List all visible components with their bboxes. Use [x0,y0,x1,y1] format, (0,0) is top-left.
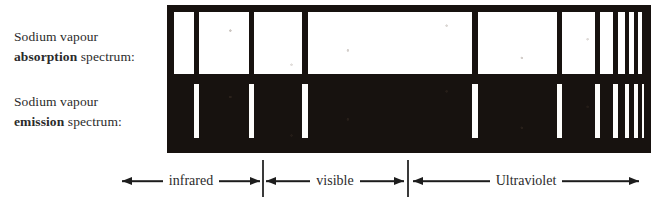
absorption-spectrum-panel [167,5,651,76]
spectral-dark-line-1 [194,12,199,74]
spectral-light-line-8 [625,84,629,138]
emission-line-container [174,76,644,146]
emission-label-line-2: emission spectrum: [14,112,164,132]
absorption-spectrum-label: Sodium vapour absorption spectrum: [14,27,164,66]
emission-spectrum-panel [167,76,651,153]
visible-ultraviolet-divider [407,160,409,197]
spectral-light-line-1 [194,84,199,138]
spectral-light-line-9 [634,84,638,138]
arrow-right-icon [394,177,404,185]
spectrum-figure [167,5,651,153]
absorption-label-line-2: absorption spectrum: [14,47,164,67]
ultraviolet-region-label: Ultraviolet [490,174,563,188]
arrow-left-icon [122,177,132,185]
spectral-dark-line-3 [302,12,308,74]
spectral-light-line-2 [249,84,254,138]
spectral-light-line-10 [642,84,645,138]
spectral-dark-line-2 [249,12,254,74]
spectral-light-line-3 [302,84,308,138]
emission-spectrum-label: Sodium vapour emission spectrum: [14,92,164,131]
spectral-light-line-4 [472,84,478,138]
spectral-dark-line-6 [595,12,600,74]
spectral-dark-line-5 [557,12,562,74]
arrow-right-icon [250,177,260,185]
visible-region-label: visible [310,174,359,188]
absorption-label-suffix: spectrum: [77,49,135,64]
spectral-region-axis: infraredvisibleUltraviolet [0,158,651,206]
spectral-dark-line-4 [472,12,478,74]
spectral-dark-line-7 [613,12,618,74]
infrared-region-label: infrared [163,174,219,188]
arrow-left-icon [266,177,276,185]
spectral-light-line-5 [557,84,562,138]
spectral-light-line-6 [595,84,600,138]
infrared-visible-divider [262,160,264,197]
emission-label-suffix: spectrum: [64,114,122,129]
spectral-light-line-7 [613,84,618,138]
absorption-line-container [174,12,644,74]
arrow-left-icon [413,177,423,185]
spectral-dark-line-8 [625,12,629,74]
arrow-right-icon [629,177,639,185]
spectral-dark-line-9 [634,12,638,74]
emission-label-emphasis: emission [14,114,64,129]
spectral-dark-line-10 [642,12,645,74]
ultraviolet-region: Ultraviolet [413,168,639,194]
emission-label-line-1: Sodium vapour [14,92,164,112]
infrared-region: infrared [122,168,260,194]
absorption-label-line-1: Sodium vapour [14,27,164,47]
absorption-label-emphasis: absorption [14,49,77,64]
visible-region: visible [266,168,404,194]
